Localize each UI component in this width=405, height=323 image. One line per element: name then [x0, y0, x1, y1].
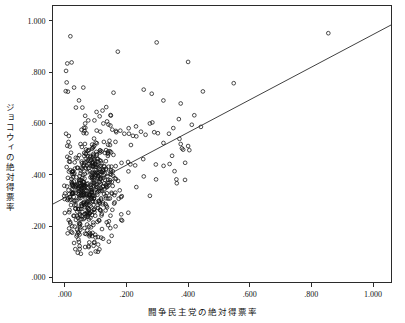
data-point	[67, 227, 71, 231]
data-point	[186, 60, 190, 64]
data-point	[65, 62, 69, 66]
data-point	[201, 90, 205, 94]
data-point	[72, 241, 76, 245]
data-point	[170, 154, 174, 158]
data-point	[190, 123, 194, 127]
data-point	[127, 126, 131, 130]
data-point	[95, 141, 99, 145]
x-tick-label: 1.000	[364, 290, 382, 299]
data-point	[183, 178, 187, 182]
data-point	[86, 119, 90, 123]
data-point	[77, 99, 81, 103]
x-tick-label: .000	[58, 290, 72, 299]
data-point	[96, 243, 100, 247]
data-point	[186, 144, 190, 148]
data-point	[95, 129, 99, 133]
data-point	[70, 61, 74, 65]
data-point	[118, 188, 122, 192]
data-point	[67, 140, 71, 144]
data-point	[104, 159, 108, 163]
y-tick-label: .800	[32, 68, 46, 77]
y-axis-title: ジョコウィの絶対得票率	[1, 78, 15, 238]
data-point	[162, 141, 166, 145]
data-point	[77, 240, 81, 244]
x-axis-ticks: .000.200.400.600.8001.000	[58, 283, 382, 299]
data-point	[116, 50, 120, 54]
data-point	[65, 144, 69, 148]
data-point	[65, 81, 69, 85]
data-point	[65, 165, 69, 169]
data-point	[81, 106, 85, 110]
data-point	[110, 128, 114, 132]
data-point	[141, 157, 145, 161]
data-point	[171, 126, 175, 130]
data-point	[122, 132, 126, 136]
data-point	[107, 240, 111, 244]
data-point	[102, 122, 106, 126]
data-point	[94, 236, 98, 240]
data-point	[127, 170, 131, 174]
x-tick-label: .400	[181, 290, 195, 299]
data-point	[126, 211, 130, 215]
y-tick-label: .400	[32, 171, 46, 180]
data-point	[179, 142, 183, 146]
data-point	[155, 41, 159, 45]
data-point	[134, 185, 138, 189]
data-point	[69, 203, 73, 207]
data-point	[100, 227, 104, 231]
data-point	[177, 117, 181, 121]
data-point	[98, 130, 102, 134]
y-tick-label: .600	[32, 119, 46, 128]
data-point	[92, 137, 96, 141]
data-point	[150, 92, 154, 96]
data-point	[104, 105, 108, 109]
data-point	[69, 151, 73, 155]
data-point	[120, 219, 124, 223]
data-point	[108, 139, 112, 143]
data-point	[162, 99, 166, 103]
data-point	[70, 231, 74, 235]
data-point	[133, 164, 137, 168]
data-point	[326, 31, 330, 35]
data-point	[129, 143, 133, 147]
x-tick-label: .600	[243, 290, 257, 299]
data-point	[114, 164, 118, 168]
data-point	[85, 229, 89, 233]
data-point	[162, 164, 166, 168]
data-point	[69, 34, 73, 38]
regression-line	[53, 25, 392, 205]
y-tick-label: 1.000	[28, 17, 46, 26]
data-point	[83, 245, 87, 249]
plot-canvas: .000.200.400.600.8001.000 .000.200.400.6…	[0, 0, 405, 323]
data-point	[68, 145, 72, 149]
data-point	[111, 184, 115, 188]
data-point	[98, 114, 102, 118]
data-point	[148, 194, 152, 198]
data-point	[89, 252, 93, 256]
data-point	[119, 212, 123, 216]
data-point	[139, 130, 143, 134]
data-point	[154, 178, 158, 182]
scatter-plot-figure: .000.200.400.600.8001.000 .000.200.400.6…	[0, 0, 405, 323]
data-point	[73, 247, 77, 251]
x-axis-title: 闘争民主党の絶対得票率	[0, 305, 405, 317]
data-point	[83, 114, 87, 118]
x-tick-label: .800	[304, 290, 318, 299]
data-point	[179, 102, 183, 106]
data-point	[152, 130, 156, 134]
data-point	[63, 211, 67, 215]
data-point	[66, 176, 70, 180]
data-point	[127, 132, 131, 136]
data-point	[66, 232, 70, 236]
data-point	[109, 214, 113, 218]
data-point	[93, 119, 97, 123]
data-point	[142, 175, 146, 179]
data-point	[156, 131, 160, 135]
data-point	[63, 192, 67, 196]
data-point	[95, 110, 99, 114]
data-point	[232, 81, 236, 85]
data-point	[134, 125, 138, 129]
y-tick-label: .200	[32, 222, 46, 231]
y-axis-ticks: .000.200.400.600.8001.000	[28, 17, 53, 282]
data-point	[114, 140, 118, 144]
